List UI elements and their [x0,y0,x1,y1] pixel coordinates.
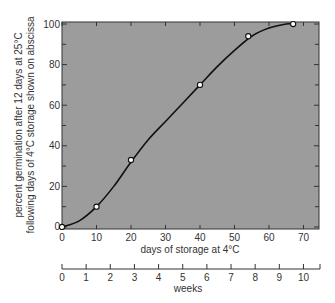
weeks-axis: 012345678910 [59,264,320,283]
plot-area [62,22,319,229]
x-tick-label: 0 [59,232,65,243]
x-tick-label: 70 [298,232,310,243]
weeks-tick-label: 8 [252,272,258,283]
y-tick-label: 40 [49,140,61,151]
weeks-tick-label: 2 [108,272,114,283]
weeks-tick-label: 1 [83,272,89,283]
x-tick-label: 30 [160,232,172,243]
x-tick-label: 50 [229,232,241,243]
y-tick-label: 80 [49,59,61,70]
weeks-tick-label: 7 [228,272,234,283]
x-tick-label: 60 [263,232,275,243]
weeks-tick-label: 6 [204,272,210,283]
x-tick-label: 20 [125,232,137,243]
weeks-tick-label: 0 [59,272,65,283]
data-point [94,204,99,209]
data-point [197,82,202,87]
weeks-tick-label: 10 [298,272,310,283]
weeks-tick-label: 3 [132,272,138,283]
x-axis-label: days of storage at 4°C [140,244,239,255]
data-point [128,157,133,162]
data-point [59,224,64,229]
y-axis-label-line-2: following days of 4°C storage shown on a… [25,16,36,233]
y-axis-label: percent germination after 12 days at 25°… [13,16,36,233]
weeks-axis-label: weeks [173,283,202,294]
y-tick-label: 20 [49,181,61,192]
data-point [291,21,296,26]
x-tick-label: 10 [91,232,103,243]
weeks-tick-label: 4 [156,272,162,283]
weeks-tick-label: 5 [180,272,186,283]
data-point [246,34,251,39]
y-tick-label: 100 [43,19,60,30]
y-tick-label: 60 [49,100,61,111]
germination-chart: 010203040506070 020406080100 days of sto… [0,0,335,303]
y-axis-label-line-1: percent germination after 12 days at 25°… [13,32,24,217]
weeks-tick-label: 9 [277,272,283,283]
x-tick-label: 40 [194,232,206,243]
